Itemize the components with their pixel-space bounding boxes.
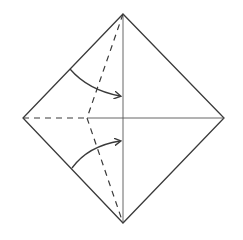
fold-arrows xyxy=(70,69,120,168)
diagram-canvas xyxy=(0,0,243,240)
lower-fold-arrow xyxy=(72,141,120,168)
lower-diagonal-valley-fold xyxy=(87,118,123,223)
upper-fold-arrow xyxy=(70,69,120,96)
crease-lines xyxy=(87,14,224,223)
paper-square-outline xyxy=(23,14,224,223)
origami-diagram xyxy=(0,0,243,240)
upper-diagonal-valley-fold xyxy=(87,14,123,118)
valley-fold-lines xyxy=(23,14,123,223)
